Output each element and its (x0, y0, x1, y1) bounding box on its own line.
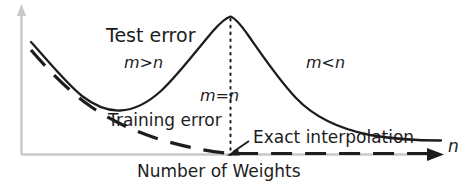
y-axis (17, 4, 26, 155)
label-m-greater-than-n: m>n (124, 55, 163, 71)
label-m-less-than-n: m<n (306, 55, 345, 71)
label-training-error: Training error (108, 112, 222, 129)
x-axis-title: Number of Weights (137, 163, 301, 180)
label-x-axis-variable-n: n (448, 138, 459, 155)
label-test-error: Test error (106, 26, 195, 45)
label-m-equals-n: m=n (200, 88, 239, 104)
label-exact-interpolation: Exact interpolation (253, 129, 414, 146)
test-error-curve (31, 17, 441, 141)
double-descent-figure: Test error m>n m<n m=n Training error Ex… (0, 0, 471, 189)
